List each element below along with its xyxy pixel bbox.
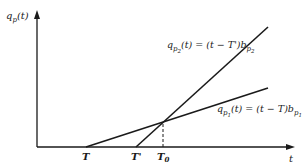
diagram-canvas: qp(t) t T T' T0 qp2(t) = (t − T')bp2 qp1… xyxy=(0,0,308,166)
line-qp1 xyxy=(86,88,268,147)
tick-label-T: T xyxy=(82,151,91,162)
y-axis-arrow-icon xyxy=(34,10,40,19)
line-qp1-label: qp1(t) = (t − T)bp1 xyxy=(217,103,302,118)
x-axis-arrow-icon xyxy=(286,144,295,150)
tick-label-T0: T0 xyxy=(157,151,169,164)
y-axis-label: qp(t) xyxy=(6,10,29,24)
tick-label-T-prime: T' xyxy=(131,151,142,162)
x-axis-label: t xyxy=(289,153,294,164)
